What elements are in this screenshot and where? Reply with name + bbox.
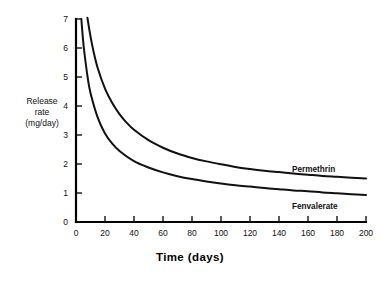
y-axis-tick-labels: 01234567 [63, 14, 68, 227]
y-tick-label: 2 [63, 159, 68, 169]
y-tick-label: 1 [63, 188, 68, 198]
y-tick-label: 4 [63, 101, 68, 111]
y-axis-title-line-3: (mg/day) [25, 118, 59, 128]
y-tick-label: 7 [63, 14, 68, 24]
y-tick-label: 6 [63, 43, 68, 53]
series-label-permethrin: Permethrin [292, 165, 335, 174]
x-tick-label: 200 [359, 228, 373, 238]
x-tick-label: 160 [301, 228, 315, 238]
x-tick-label: 40 [129, 228, 139, 238]
x-tick-label: 80 [187, 228, 197, 238]
x-tick-label: 120 [243, 228, 257, 238]
y-tick-label: 0 [63, 217, 68, 227]
x-tick-label: 20 [100, 228, 110, 238]
y-axis-title-line-2: rate [35, 107, 50, 117]
x-axis-title: Time (days) [156, 251, 224, 263]
series-line-permethrin [87, 18, 366, 179]
x-tick-label: 140 [272, 228, 286, 238]
x-axis-tick-labels: 020406080100120140160180200 [74, 228, 374, 238]
series-label-fenvalerate: Fenvalerate [292, 202, 338, 211]
y-axis-title-line-1: Release [26, 96, 57, 106]
y-tick-label: 3 [63, 130, 68, 140]
y-tick-label: 5 [63, 72, 68, 82]
x-tick-label: 0 [74, 228, 79, 238]
x-tick-label: 180 [330, 228, 344, 238]
caption-strip [0, 276, 380, 284]
x-tick-label: 100 [214, 228, 228, 238]
x-tick-label: 60 [158, 228, 168, 238]
release-rate-line-chart: 01234567 020406080100120140160180200 Per… [0, 0, 380, 284]
figure-container: 01234567 020406080100120140160180200 Per… [0, 0, 380, 284]
